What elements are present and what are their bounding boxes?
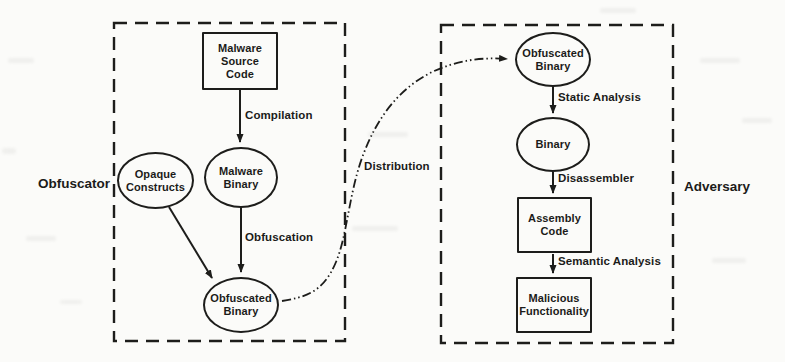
node-assembly-code: Assembly Code — [517, 197, 592, 253]
diagram-page: Malware Source Code Opaque Constructs Ma… — [0, 0, 785, 362]
edge-label-semantic-analysis: Semantic Analysis — [558, 255, 661, 267]
node-malware-source-code-label: Malware Source Code — [218, 42, 262, 81]
edge-label-compilation: Compilation — [245, 109, 313, 121]
node-malware-binary-label: Malware Binary — [219, 165, 263, 191]
edge-label-static-analysis: Static Analysis — [558, 91, 641, 103]
node-obfuscated-binary-right: Obfuscated Binary — [515, 32, 591, 87]
node-opaque-constructs: Opaque Constructs — [117, 152, 194, 209]
node-obfuscated-binary-left-label: Obfuscated Binary — [210, 292, 272, 318]
node-malware-binary: Malware Binary — [204, 147, 278, 208]
node-obfuscated-binary-left: Obfuscated Binary — [203, 277, 279, 333]
obfuscator-group-label: Obfuscator — [20, 176, 110, 191]
edge-label-distribution: Distribution — [364, 160, 430, 172]
node-binary-label: Binary — [536, 138, 571, 151]
node-binary: Binary — [516, 117, 590, 172]
node-malicious-functionality-label: Malicious Functionality — [519, 292, 589, 318]
node-malware-source-code: Malware Source Code — [202, 32, 278, 90]
adversary-group-label: Adversary — [684, 179, 750, 194]
node-obfuscated-binary-right-label: Obfuscated Binary — [522, 47, 584, 73]
edge-label-obfuscation: Obfuscation — [245, 231, 313, 243]
edge-opaque-constructs-arrow — [169, 207, 212, 278]
node-opaque-constructs-label: Opaque Constructs — [126, 168, 185, 194]
edge-distribution-curve — [282, 58, 507, 301]
node-malicious-functionality: Malicious Functionality — [516, 277, 592, 333]
edge-label-disassembler: Disassembler — [558, 172, 634, 184]
node-assembly-code-label: Assembly Code — [528, 212, 581, 238]
